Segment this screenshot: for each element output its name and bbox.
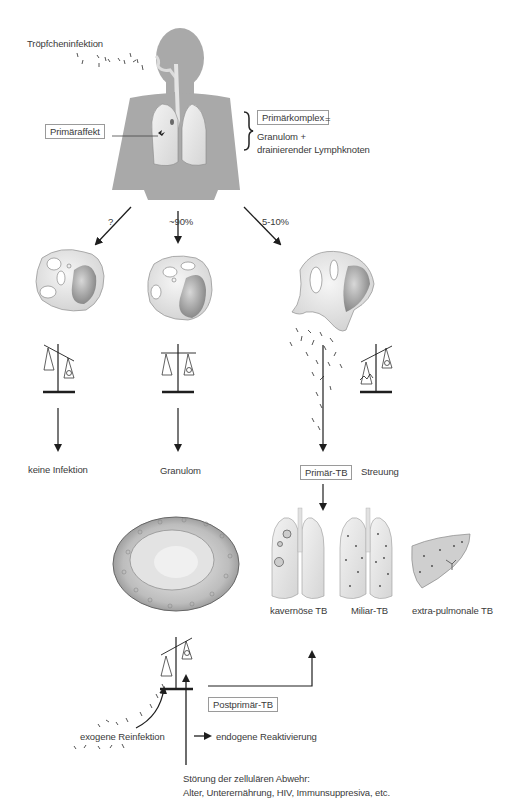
granuloma-icon [113,517,239,611]
probability-5-10: 5-10% [262,216,289,227]
primary-complex-equals: = [325,113,330,124]
outcome-primary-tb: Primär-TB [300,465,352,480]
droplets-icon [77,53,143,70]
macrophage-cell-left-icon [36,250,104,311]
endogenous-reactivation-label: endogene Reaktivierung [216,731,317,742]
balance-scale-reinfection-icon [160,637,193,689]
bursting-macrophage-icon [292,251,374,331]
immune-disorder-causes: Alter, Unterernährung, HIV, Immunsuppres… [183,787,390,798]
probability-90: ~90% [169,216,193,227]
exogenous-reinfection-label: exogene Reinfektion [80,731,165,742]
human-torso-icon [112,28,240,200]
arrow-unknown [96,207,131,244]
primary-complex-def-1: Granulom + [257,131,306,142]
bacteria-spill-icon [290,328,342,430]
primary-complex-def-2: drainierender Lymphknoten [257,144,370,155]
liver-icon [412,534,470,588]
arrow-exogenous-reinfection [136,688,164,728]
outcome-no-infection: keine Infektion [28,464,88,475]
droplet-infection-label: Tröpfcheninfektion [27,38,103,49]
balance-scale-balanced-icon [161,344,196,392]
probability-unknown: ? [108,216,113,227]
immune-disorder-title: Störung der zellulären Abwehr: [183,773,310,784]
form-extrapulmonary-tb: extra-pulmonale TB [412,605,493,616]
dissemination-label: Streuung [361,466,399,477]
miliary-tb-lungs-icon [340,508,392,599]
arrow-postprimary [208,652,312,686]
balance-scale-overloaded-icon [360,344,392,392]
curly-brace-icon [244,112,253,150]
outcome-granuloma: Granulom [160,465,201,476]
balance-scale-tilted-icon [43,344,75,392]
postprimary-tb-label: Postprimär-TB [208,697,278,712]
cavernous-tb-lungs-icon [272,508,324,599]
form-cavernous-tb: kavernöse TB [270,605,327,616]
primary-lesion-label: Primäraffekt [45,124,105,139]
form-miliary-tb: Miliar-TB [351,605,388,616]
primary-complex-label: Primärkomplex [257,110,329,125]
macrophage-cell-center-icon [148,256,212,320]
